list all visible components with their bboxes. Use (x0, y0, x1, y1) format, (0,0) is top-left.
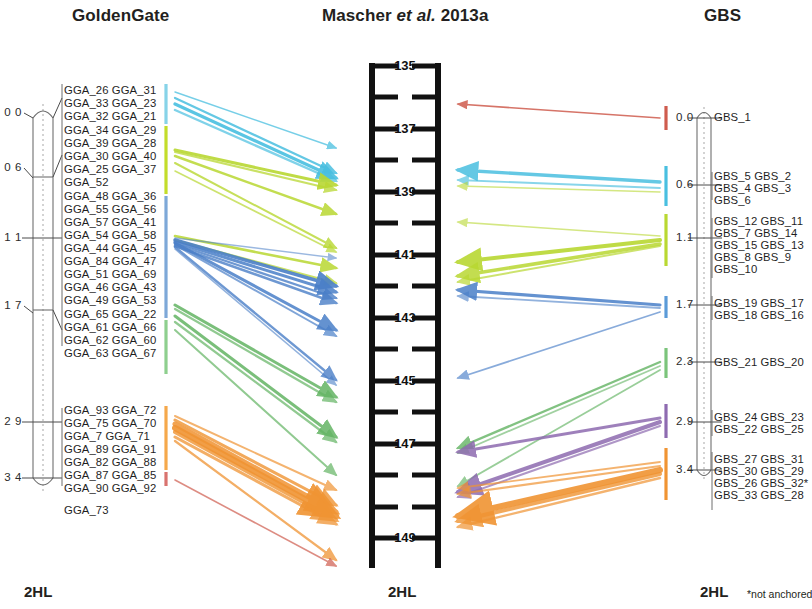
goldengate-position-ticks (22, 98, 62, 478)
column-title-mascher: Mascher et al. 2013a (322, 6, 488, 26)
gg-marker-label: GGA_32 GGA_21 (64, 110, 156, 124)
gg-marker-label: GGA_39 GGA_28 (64, 137, 156, 151)
footnote-not-anchored: *not anchored (747, 588, 812, 600)
gg-marker-label: GGA_62 GGA_60 (64, 334, 156, 348)
gbs-position-0: 0.0 (676, 111, 706, 123)
gg-marker-label: GGA_90 GGA_92 (64, 482, 156, 496)
gg-marker-label: GGA_75 GGA_70 (64, 417, 156, 431)
gg-marker-label: GGA_49 GGA_53 (64, 294, 156, 308)
mascher-title-year: 2013a (441, 6, 489, 25)
gg-marker-label: GGA_54 GGA_58 (64, 229, 156, 243)
mascher-axis-label: 149 (385, 530, 425, 545)
gbs-position-1: 0.6 (676, 178, 706, 190)
gg-marker-label: GGA_7 GGA_71 (64, 430, 150, 444)
gbs-marker-label: GBS_33 GBS_28 (714, 489, 804, 503)
gg-position-5: 3 4 (0, 471, 22, 483)
gbs-marker-label: GBS_10 (714, 263, 757, 277)
footer-label-goldengate: 2HL (24, 583, 52, 600)
gg-marker-label: GGA_73 (64, 504, 109, 518)
mascher-axis-label: 141 (385, 247, 425, 262)
mascher-axis-label: 139 (385, 184, 425, 199)
mascher-axis-label: 143 (385, 310, 425, 325)
mascher-axis-label: 147 (385, 436, 425, 451)
gbs-marker-label: GBS_18 GBS_16 (714, 309, 804, 323)
gg-marker-label: GGA_57 GGA_41 (64, 216, 156, 230)
gg-marker-label: GGA_25 GGA_37 (64, 163, 156, 177)
gbs-position-3: 1.7 (676, 298, 706, 310)
gg-marker-label: GGA_93 GGA_72 (64, 404, 156, 418)
gg-marker-label: GGA_33 GGA_23 (64, 97, 156, 111)
column-title-gbs: GBS (704, 6, 741, 26)
gbs-marker-label: GBS_6 (714, 194, 751, 208)
gbs-marker-label: GBS_1 (714, 111, 751, 125)
gbs-marker-label: GBS_21 GBS_20 (714, 356, 804, 370)
mascher-title-italic: et al. (397, 6, 436, 25)
gg-position-1: 0 6 (0, 161, 22, 173)
gg-marker-label: GGA_30 GGA_40 (64, 150, 156, 164)
gg-position-3: 1 7 (0, 299, 22, 311)
gbs-position-2: 1.1 (676, 231, 706, 243)
gg-position-0: 0 0 (0, 106, 22, 118)
gg-marker-label: GGA_82 GGA_88 (64, 456, 156, 470)
mascher-axis-label: 135 (385, 58, 425, 73)
goldengate-chromosome (33, 104, 53, 492)
gbs-marker-label: GBS_22 GBS_25 (714, 423, 804, 437)
gbs-position-5: 2.9 (676, 415, 706, 427)
gg-marker-label: GGA_87 GGA_85 (64, 469, 156, 483)
gg-marker-label: GGA_63 GGA_67 (64, 347, 156, 361)
footer-label-mascher: 2HL (388, 583, 416, 600)
gg-marker-label: GGA_48 GGA_36 (64, 190, 156, 204)
gg-marker-label: GGA_44 GGA_45 (64, 242, 156, 256)
gg-marker-label: GGA_46 GGA_43 (64, 281, 156, 295)
mascher-axis-label: 137 (385, 121, 425, 136)
gg-marker-label: GGA_61 GGA_66 (64, 321, 156, 335)
gg-marker-label: GGA_34 GGA_29 (64, 124, 156, 138)
gg-marker-label: GGA_52 (64, 176, 109, 190)
gg-marker-label: GGA_26 GGA_31 (64, 84, 156, 98)
footer-label-gbs: 2HL (700, 583, 728, 600)
gbs-position-4: 2.3 (676, 355, 706, 367)
mascher-axis-label: 145 (385, 373, 425, 388)
column-title-goldengate: GoldenGate (72, 6, 169, 26)
gg-marker-label: GGA_55 GGA_56 (64, 203, 156, 217)
gg-marker-label: GGA_84 GGA_47 (64, 255, 156, 269)
gg-marker-label: GGA_51 GGA_69 (64, 268, 156, 282)
gg-marker-label: GGA_89 GGA_91 (64, 443, 156, 457)
mascher-title-main: Mascher (322, 6, 392, 25)
gg-position-2: 1 1 (0, 231, 22, 243)
gbs-position-6: 3.4 (676, 463, 706, 475)
gg-position-4: 2 9 (0, 415, 22, 427)
gg-marker-label: GGA_65 GGA_22 (64, 308, 156, 322)
